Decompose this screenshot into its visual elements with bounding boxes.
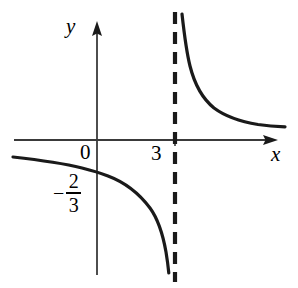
curve-left-branch <box>13 157 169 273</box>
x-axis-label: x <box>271 144 280 165</box>
y-axis-label: y <box>66 16 75 37</box>
x-axis <box>14 135 278 145</box>
origin-label: 0 <box>80 142 91 163</box>
rational-function-figure: y x 0 3 − 2 3 <box>0 0 298 288</box>
minus-sign: − <box>53 183 66 203</box>
y-axis <box>92 21 102 275</box>
x-tick-label-three: 3 <box>151 143 162 164</box>
fraction-denominator: 3 <box>67 195 81 215</box>
graph-canvas <box>0 0 298 288</box>
fraction-numerator: 2 <box>67 171 81 191</box>
y-intercept-label: − 2 3 <box>53 171 81 216</box>
curve-right-branch <box>182 14 285 127</box>
fraction-two-thirds: 2 3 <box>66 171 81 216</box>
